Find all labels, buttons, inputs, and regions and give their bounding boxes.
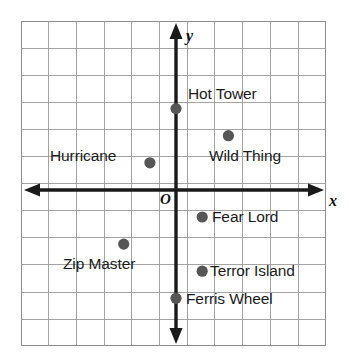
label-zip-master: Zip Master: [63, 256, 135, 272]
data-points: [0, 0, 349, 362]
label-hot-tower: Hot Tower: [188, 86, 257, 102]
point-fear-lord: [197, 211, 208, 222]
label-hurricane: Hurricane: [50, 148, 116, 164]
label-fear-lord: Fear Lord: [212, 209, 278, 225]
label-terror-island: Terror Island: [210, 263, 295, 279]
point-ferris-wheel: [170, 293, 181, 304]
coordinate-plane-figure: y x O Hot Tower Wild Thing Hurricane Fea…: [0, 0, 349, 362]
point-hurricane: [144, 157, 155, 168]
point-wild-thing: [223, 130, 234, 141]
point-terror-island: [197, 266, 208, 277]
point-hot-tower: [170, 103, 181, 114]
origin-label: O: [160, 192, 171, 207]
label-ferris-wheel: Ferris Wheel: [186, 291, 273, 307]
y-axis-label: y: [186, 28, 193, 44]
x-axis-label: x: [329, 193, 337, 209]
point-zip-master: [118, 239, 129, 250]
label-wild-thing: Wild Thing: [209, 148, 281, 164]
